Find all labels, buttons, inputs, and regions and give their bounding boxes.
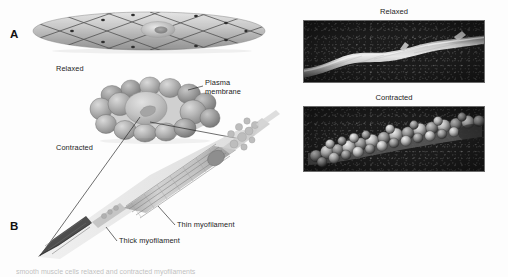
- label-plasma-membrane: Plasma membrane: [205, 78, 241, 96]
- contracted-micrograph: [303, 106, 485, 172]
- label-thin-myofilament: Thin myofilament: [177, 220, 235, 229]
- bundle-neck: [92, 203, 126, 228]
- figure-root: A B: [0, 0, 508, 277]
- caption-strip: smooth muscle cells relaxed and contract…: [0, 269, 508, 277]
- relaxed-cell-diagram: [33, 6, 276, 56]
- label-relaxed-cell: Relaxed: [56, 64, 84, 73]
- dense-bodies: [70, 14, 248, 49]
- label-contracted-cell: Contracted: [56, 143, 93, 152]
- bundle-dense-body: [205, 147, 228, 169]
- relaxed-cell-nucleolus: [155, 27, 168, 34]
- figure-caption: smooth muscle cells relaxed and contract…: [16, 269, 195, 275]
- contracted-micrograph-vignette: [304, 107, 484, 171]
- panel-letter-b: B: [10, 220, 18, 232]
- label-thick-myofilament: Thick myofilament: [119, 236, 180, 245]
- relaxed-micrograph-title: Relaxed: [303, 7, 485, 16]
- label-plasma-membrane-line2: membrane: [205, 87, 241, 96]
- relaxed-micrograph: [303, 20, 485, 83]
- bundle-upper-tail: [222, 110, 280, 154]
- relaxed-micrograph-vignette: [304, 21, 484, 82]
- contracted-micrograph-title: Contracted: [303, 93, 485, 102]
- contracted-cell-nucleus: [125, 92, 167, 125]
- leader-lines-panel-a: [40, 86, 246, 256]
- myofilament-strands: [124, 144, 236, 218]
- contracted-cell-diagram: [90, 77, 220, 144]
- label-plasma-membrane-line1: Plasma: [205, 78, 230, 87]
- contracted-cell-nucleolus: [140, 106, 156, 117]
- panel-letter-a: A: [10, 28, 18, 40]
- bundle-tip: [38, 216, 92, 257]
- relaxed-cell-nucleus: [141, 22, 175, 38]
